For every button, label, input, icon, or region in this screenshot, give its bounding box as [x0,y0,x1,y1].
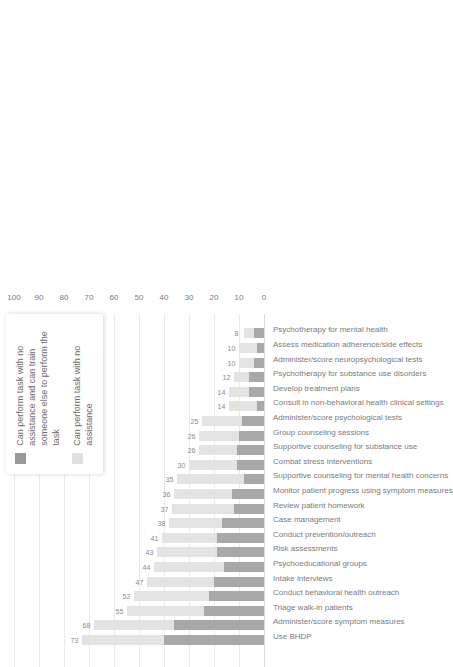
bar-segment-no-assistance [199,431,239,441]
bar-segment-no-assistance [239,343,257,353]
bar-segment-can-train-others [174,620,264,630]
bar-segment-no-assistance [154,562,224,572]
bar-segment-no-assistance [244,328,254,338]
category-axis-label: Psychotherapy for mental health [273,326,388,334]
bar-segment-no-assistance [202,416,242,426]
bar-segment-no-assistance [82,635,165,645]
bar-segment-can-train-others [204,606,264,616]
bar-segment-no-assistance [169,518,222,528]
category-axis-label: Combat stress interventions [273,458,372,466]
axis-tick-label: 70 [85,294,94,302]
chart-legend: Can perform task with no assistance and … [6,314,103,474]
bar-segment-can-train-others [214,577,264,587]
category-axis-label: Administer/score psychological tests [273,414,402,422]
bar-group: 43 [0,547,320,557]
category-axis-label: Develop treatment plans [273,385,360,393]
bar-segment-can-train-others [254,358,264,368]
bar-segment-no-assistance [229,387,249,397]
bar-segment-can-train-others [217,547,265,557]
axis-tick-label: 60 [110,294,119,302]
category-axis-label: Conduct behavioral health outreach [273,589,399,597]
bar-segment-no-assistance [199,445,237,455]
bar-segment-no-assistance [234,372,249,382]
category-axis-label: Group counseling sessions [273,429,369,437]
bar-segment-no-assistance [127,606,205,616]
bar-value-label: 47 [135,578,143,585]
axis-tick-label: 10 [235,294,244,302]
category-axis-label: Use BHDP [273,633,312,641]
category-axis-label: Consult in non-behavioral health clinica… [273,399,444,407]
bar-value-label: 14 [218,403,226,410]
bar-value-label: 68 [83,622,91,629]
category-axis-label: Monitor patient progress using symptom m… [273,487,453,495]
bar-value-label: 26 [188,447,196,454]
bar-segment-can-train-others [249,372,264,382]
bar-value-label: 10 [228,345,236,352]
category-axis-label: Supportive counseling for mental health … [273,472,448,480]
bar-value-label: 44 [143,564,151,571]
bar-segment-no-assistance [174,489,232,499]
bar-segment-no-assistance [147,577,215,587]
bar-value-label: 38 [158,520,166,527]
bar-group: 73 [0,635,320,645]
bar-value-label: 8 [235,330,239,337]
bar-value-label: 25 [190,418,198,425]
legend-label: Can perform task with no assistance and … [14,328,63,446]
bar-segment-can-train-others [234,504,264,514]
bar-segment-can-train-others [224,562,264,572]
category-axis-label: Supportive counseling for substance use [273,443,417,451]
bar-segment-no-assistance [157,547,217,557]
axis-tick-label: 20 [210,294,219,302]
category-axis-label: Administer/score symptom measures [273,618,405,626]
bar-segment-can-train-others [249,387,264,397]
legend-label: Can perform task with no assistance [71,328,95,446]
bar-value-label: 12 [223,374,231,381]
bar-segment-no-assistance [177,474,245,484]
bar-value-label: 37 [160,505,168,512]
bar-segment-can-train-others [257,401,265,411]
bar-group: 37 [0,504,320,514]
bar-value-label: 55 [115,607,123,614]
category-axis-label: Conduct prevention/outreach [273,531,376,539]
bar-group: 44 [0,562,320,572]
bar-segment-no-assistance [94,620,174,630]
bar-value-label: 10 [228,359,236,366]
bar-segment-no-assistance [189,460,237,470]
legend-item: Can perform task with no assistance [71,324,95,464]
bar-value-label: 52 [123,593,131,600]
bar-segment-can-train-others [222,518,265,528]
bar-group: 55 [0,606,320,616]
bar-value-label: 73 [70,637,78,644]
bar-segment-can-train-others [209,591,264,601]
bar-group: 52 [0,591,320,601]
bar-value-label: 26 [188,432,196,439]
bar-value-label: 14 [218,388,226,395]
category-axis-label: Review patient homework [273,502,365,510]
bar-group: 41 [0,533,320,543]
bar-value-label: 41 [150,534,158,541]
axis-tick-label: 100 [7,294,20,302]
axis-tick-label: 50 [135,294,144,302]
legend-swatch-icon [72,453,83,464]
bar-group: 35 [0,474,320,484]
bar-segment-can-train-others [244,474,264,484]
bar-value-label: 30 [178,461,186,468]
bar-segment-can-train-others [232,489,265,499]
bar-value-label: 43 [145,549,153,556]
bar-segment-can-train-others [164,635,264,645]
bar-group: 68 [0,620,320,630]
category-axis-label: Psychoeducational groups [273,560,367,568]
bar-segment-can-train-others [242,416,265,426]
legend-swatch-icon [15,453,26,464]
bar-segment-can-train-others [237,445,265,455]
bar-segment-can-train-others [257,343,265,353]
bar-segment-can-train-others [237,460,265,470]
category-axis-label: Administer/score neuropsychological test… [273,356,422,364]
category-axis-label: Triage walk-in patients [273,604,353,612]
axis-tick-label: 0 [262,294,266,302]
bar-segment-can-train-others [254,328,264,338]
category-axis-label: Intake interviews [273,575,333,583]
axis-tick-label: 80 [60,294,69,302]
